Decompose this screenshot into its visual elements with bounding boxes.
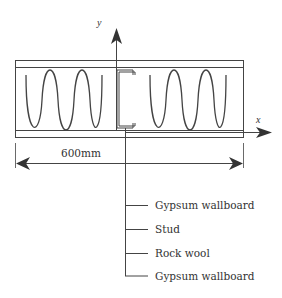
y-axis-label: y	[96, 17, 102, 28]
wall-section-diagram: y x 600mm Gypsum wallboard Stud Rock woo…	[0, 0, 282, 298]
stud-channel	[117, 70, 135, 128]
component-label-rock-wool: Rock wool	[155, 247, 210, 259]
dimension-label: 600mm	[61, 147, 101, 159]
component-label-gypsum-bottom: Gypsum wallboard	[155, 270, 255, 282]
component-label-stud: Stud	[155, 223, 180, 235]
rock-wool-right	[150, 70, 226, 130]
component-label-gypsum-top: Gypsum wallboard	[155, 199, 255, 211]
rock-wool-left	[26, 70, 102, 130]
x-axis-label: x	[255, 114, 261, 125]
